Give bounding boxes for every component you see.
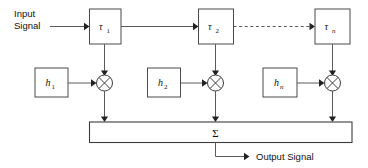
delay-block-2[interactable]: τ 2 [199, 9, 234, 44]
input-signal-wire [50, 23, 90, 30]
summer-wire-1 [101, 91, 108, 122]
input-signal-label-line1: Input [14, 8, 35, 19]
coefficient-block-1-subscript: 1 [52, 83, 56, 91]
delay-block-2-subscript: 2 [216, 27, 220, 35]
coefficient-block-n-subscript: n [280, 83, 284, 91]
multiplier-n[interactable] [325, 75, 341, 91]
output-signal-wire [216, 143, 250, 161]
delay-block-n[interactable]: τ n [315, 9, 350, 44]
diagram-canvas: τ 1 τ 2 τ n h [0, 0, 368, 168]
summer-block[interactable]: Σ [90, 122, 353, 143]
coefficient-wire-1 [68, 79, 97, 86]
delay-block-1[interactable]: τ 1 [90, 9, 122, 44]
delay-block-1-subscript: 1 [107, 27, 111, 35]
coefficient-wire-2 [181, 79, 208, 86]
delay-block-2-symbol: τ [208, 21, 212, 32]
coefficient-block-n[interactable]: h n [263, 68, 297, 97]
tap-wire-2 [212, 44, 219, 76]
delay-block-n-symbol: τ [325, 21, 329, 32]
signal-flow-diagram: τ 1 τ 2 τ n h [0, 0, 368, 168]
coefficient-block-2-subscript: 2 [164, 83, 168, 91]
summer-wire-n [329, 91, 336, 122]
tap-wire-1 [101, 44, 108, 76]
tap-wire-n [329, 44, 336, 76]
multiplier-1[interactable] [97, 75, 113, 91]
coefficient-wire-n [297, 79, 325, 86]
delay-block-n-subscript: n [332, 27, 336, 35]
coefficient-block-2-symbol: h [158, 77, 163, 88]
wire-delay2-delayn-dashed [234, 23, 316, 30]
wire-delay1-delay2 [121, 23, 199, 30]
input-signal-label: Input Signal [14, 8, 40, 31]
coefficient-block-2[interactable]: h 2 [148, 68, 181, 97]
coefficient-block-1[interactable]: h 1 [35, 68, 68, 97]
coefficient-block-n-symbol: h [274, 77, 279, 88]
delay-block-1-symbol: τ [99, 21, 103, 32]
input-signal-label-line2: Signal [14, 20, 40, 31]
output-signal-label: Output Signal [256, 151, 314, 162]
summer-wire-2 [212, 91, 219, 122]
multiplier-2[interactable] [208, 75, 224, 91]
summer-label: Σ [212, 127, 218, 139]
coefficient-block-1-symbol: h [46, 77, 51, 88]
